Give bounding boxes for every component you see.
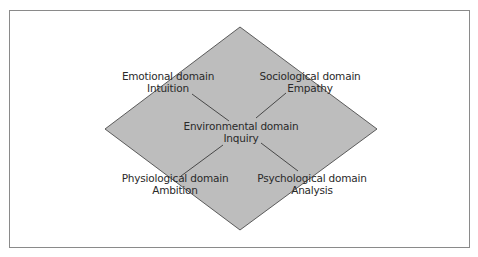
node-psychological-domain: Psychological domain — [254, 172, 370, 184]
node-psychological-trait: Analysis — [254, 184, 370, 196]
node-center-trait: Inquiry — [180, 132, 302, 144]
node-center-domain: Environmental domain — [180, 120, 302, 132]
node-psychological: Psychological domain Analysis — [254, 172, 370, 196]
node-sociological: Sociological domain Empathy — [255, 70, 365, 94]
node-sociological-trait: Empathy — [255, 82, 365, 94]
node-sociological-domain: Sociological domain — [255, 70, 365, 82]
node-center: Environmental domain Inquiry — [180, 120, 302, 144]
node-emotional: Emotional domain Intuition — [118, 70, 218, 94]
node-physiological-domain: Physiological domain — [117, 172, 233, 184]
node-emotional-domain: Emotional domain — [118, 70, 218, 82]
node-emotional-trait: Intuition — [118, 82, 218, 94]
node-physiological-trait: Ambition — [117, 184, 233, 196]
node-physiological: Physiological domain Ambition — [117, 172, 233, 196]
